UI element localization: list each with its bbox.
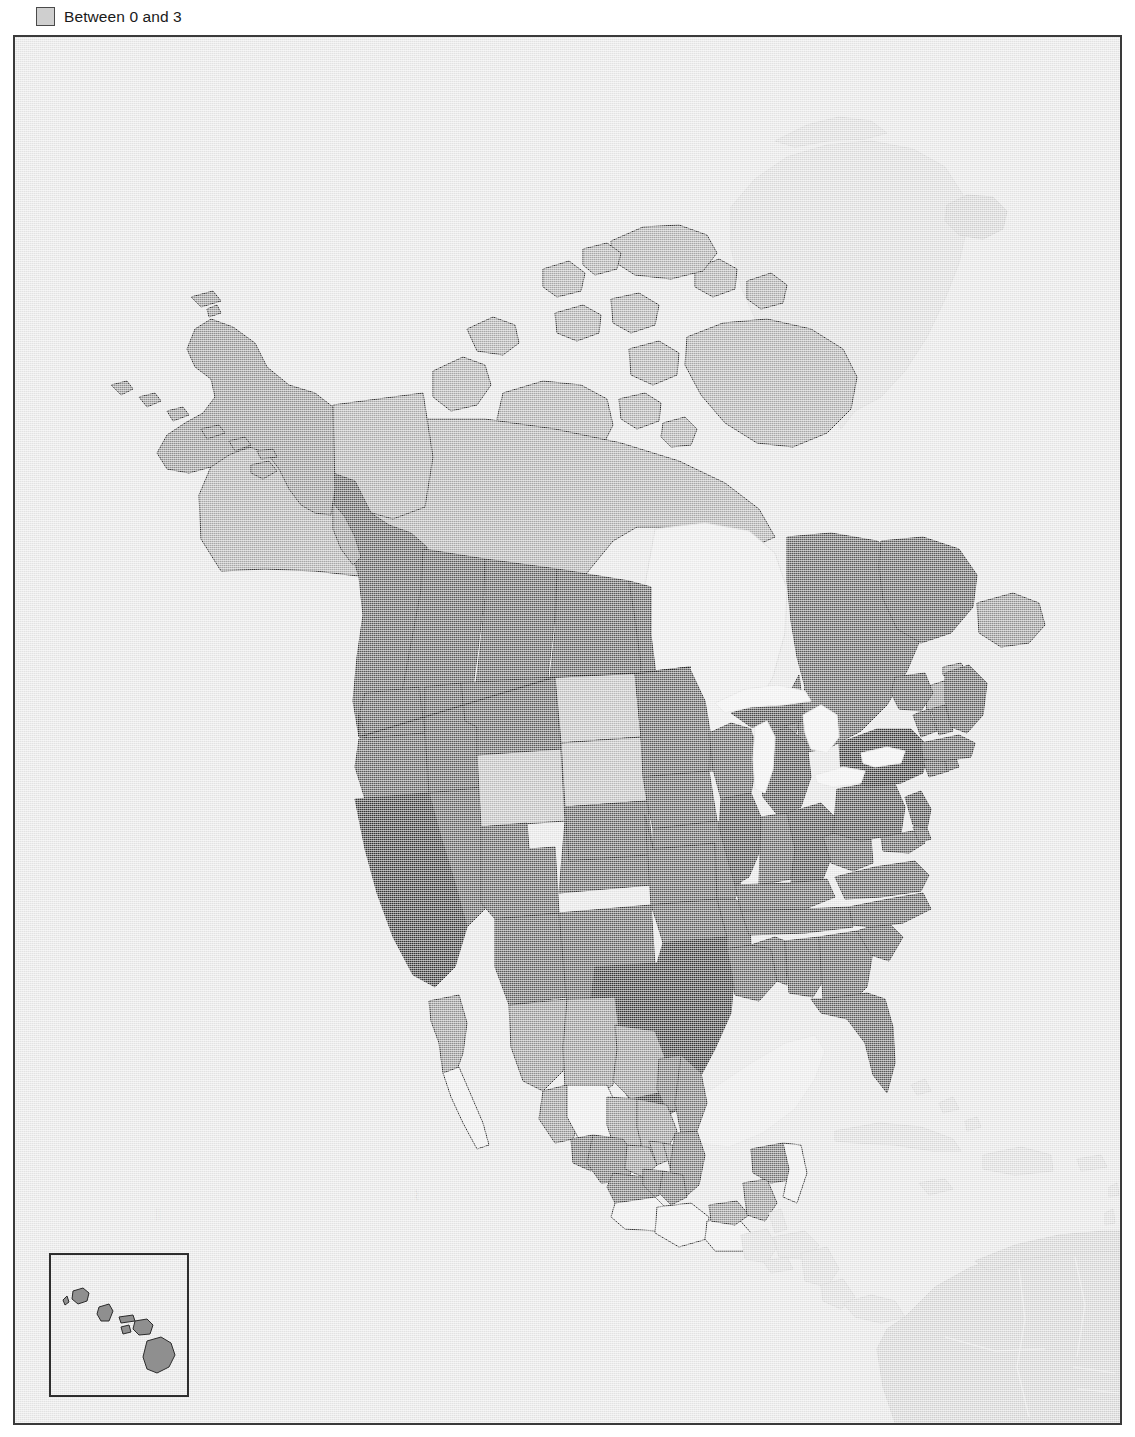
north-america-choropleth[interactable]	[15, 37, 1120, 1423]
region-alabama[interactable]	[785, 937, 823, 997]
island-maui	[133, 1319, 153, 1335]
region-washington[interactable]	[359, 687, 425, 739]
island-kauai	[72, 1288, 89, 1304]
map-legend: Between 0 and 3	[0, 0, 1135, 33]
region-pennsylvania[interactable]	[833, 779, 905, 841]
region-oregon[interactable]	[355, 733, 429, 799]
region-arizona[interactable]	[495, 913, 567, 1005]
hawaii-inset-box[interactable]	[49, 1253, 189, 1397]
island-oahu	[97, 1304, 113, 1321]
region-iowa[interactable]	[643, 771, 717, 829]
hawaii-inset-map[interactable]	[51, 1255, 187, 1395]
map-frame[interactable]: ◌ ◌ ◌ ◌ || ⌇	[13, 35, 1122, 1425]
region-chihuahua[interactable]	[563, 997, 621, 1099]
region-nebraska[interactable]	[565, 801, 653, 861]
region-oklahoma[interactable]	[651, 899, 727, 943]
island-niihau	[63, 1296, 69, 1305]
watermark-mark: ◌	[133, 837, 142, 854]
watermark-mark: ◌	[145, 1047, 154, 1064]
island-hawaii	[143, 1337, 175, 1373]
watermark-mark: ||	[155, 1205, 161, 1222]
legend-item-list: Between 0 and 3	[36, 7, 182, 26]
watermark-mark: ◌	[107, 1047, 116, 1064]
watermark-mark: ◌	[155, 489, 164, 506]
hawaii-islands	[63, 1288, 175, 1373]
watermark-mark: ⌇	[413, 1187, 420, 1205]
legend-item-label: Between 0 and 3	[64, 9, 182, 25]
island-lanai	[121, 1325, 131, 1334]
island-molokai	[119, 1315, 135, 1323]
legend-item[interactable]: Between 0 and 3	[36, 7, 182, 26]
region-wyoming[interactable]	[477, 749, 565, 827]
legend-swatch-icon	[36, 7, 55, 26]
region-south-dakota[interactable]	[561, 737, 647, 807]
region-north-dakota[interactable]	[555, 673, 641, 743]
